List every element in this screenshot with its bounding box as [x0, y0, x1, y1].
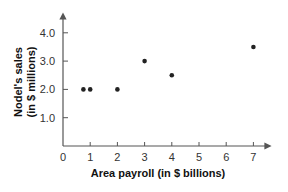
data-point: [142, 59, 147, 64]
x-tick-label: 4: [169, 151, 175, 163]
scatter-chart: 1.02.03.04.0 01234567 Area payroll (in $…: [0, 0, 288, 192]
x-tick-label: 1: [87, 151, 93, 163]
x-tick-label: 2: [114, 151, 120, 163]
x-tick-label: 6: [223, 151, 229, 163]
x-ticks: 01234567: [60, 142, 257, 163]
data-point: [170, 73, 175, 78]
y-axis-title-line1: Nodel's sales: [12, 47, 24, 117]
y-tick-label: 4.0: [40, 27, 55, 39]
x-tick-label: 0: [60, 151, 66, 163]
x-axis-title: Area payroll (in $ billions): [91, 167, 226, 179]
y-axis-title-line2: (in $ millions): [25, 46, 37, 117]
data-point: [115, 87, 120, 92]
x-tick-label: 3: [142, 151, 148, 163]
data-point: [81, 87, 86, 92]
y-tick-label: 3.0: [40, 55, 55, 67]
y-ticks: 1.02.03.04.0: [40, 27, 68, 124]
x-tick-label: 7: [250, 151, 256, 163]
y-tick-label: 1.0: [40, 112, 55, 124]
y-tick-label: 2.0: [40, 83, 55, 95]
data-point: [88, 87, 93, 92]
data-point: [251, 45, 256, 50]
x-tick-label: 5: [196, 151, 202, 163]
data-points: [81, 45, 256, 92]
